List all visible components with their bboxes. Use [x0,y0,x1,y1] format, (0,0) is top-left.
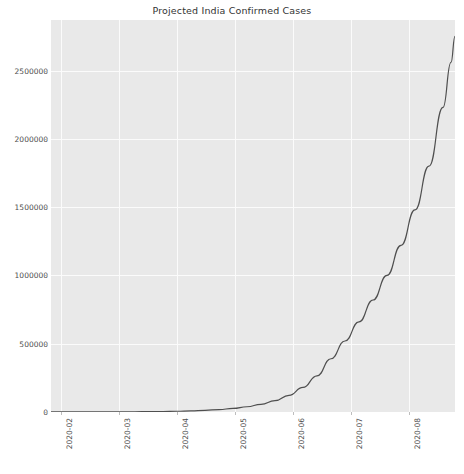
x-tick-label: 2020-08 [413,418,422,449]
x-tick-label: 2020-05 [239,418,248,449]
x-tick-label: 2020-02 [65,418,74,449]
y-tick-label: 1000000 [2,271,48,280]
y-tick-label: 0 [2,408,48,417]
y-tick-mark [45,412,48,413]
y-tick-mark [45,139,48,140]
plot-area [51,20,455,412]
x-tick-mark [177,412,178,415]
x-tick-label: 2020-03 [123,418,132,449]
y-tick-label: 2500000 [2,66,48,75]
x-tick-label: 2020-07 [355,418,364,449]
x-tick-mark [235,412,236,415]
y-tick-label: 500000 [2,339,48,348]
x-tick-mark [61,412,62,415]
y-tick-mark [45,344,48,345]
chart-figure: Projected India Confirmed Cases 05000001… [0,0,464,474]
x-tick-mark [409,412,410,415]
y-tick-mark [45,275,48,276]
x-tick-label: 2020-06 [297,418,306,449]
y-tick-mark [45,207,48,208]
x-tick-label: 2020-04 [181,418,190,449]
chart-title: Projected India Confirmed Cases [0,5,464,16]
y-tick-mark [45,71,48,72]
x-axis-tick-labels: 2020-022020-032020-042020-052020-062020-… [51,412,455,474]
y-axis-tick-labels: 05000001000000150000020000002500000 [0,20,48,412]
x-tick-mark [351,412,352,415]
series-line-projected-india-confirmed-cases [51,20,455,412]
x-tick-mark [293,412,294,415]
x-tick-mark [119,412,120,415]
y-tick-label: 1500000 [2,203,48,212]
y-tick-label: 2000000 [2,134,48,143]
